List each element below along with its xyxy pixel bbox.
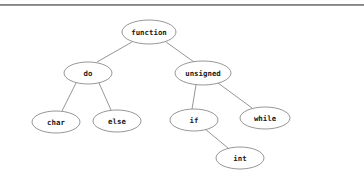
node-label-if: if [190, 116, 199, 125]
tree-edge-unsigned-to-if [192, 85, 196, 109]
tree-node-else[interactable]: else [93, 110, 141, 132]
tree-node-char[interactable]: char [32, 111, 80, 133]
tree-edge-function-to-do [97, 42, 132, 62]
tree-node-function[interactable]: function [122, 20, 176, 44]
edge-group [62, 42, 252, 148]
tree-node-int[interactable]: int [216, 147, 264, 169]
node-label-char: char [47, 118, 65, 127]
tree-edge-do-to-char [62, 83, 76, 111]
tree-node-if[interactable]: if [170, 109, 218, 131]
tree-diagram: functiondounsignedcharelseifwhileint [0, 0, 364, 184]
tree-edge-function-to-unsigned [166, 42, 194, 62]
tree-edge-unsigned-to-while [218, 83, 252, 108]
tree-node-while[interactable]: while [240, 107, 290, 129]
tree-edge-do-to-else [99, 83, 111, 110]
node-label-else: else [108, 117, 126, 126]
diagram-canvas: functiondounsignedcharelseifwhileint [0, 0, 364, 184]
node-label-while: while [254, 114, 277, 123]
tree-node-unsigned[interactable]: unsigned [175, 61, 231, 85]
tree-edge-if-to-int [205, 129, 228, 148]
node-label-function: function [131, 28, 167, 37]
node-label-int: int [233, 154, 246, 163]
node-label-unsigned: unsigned [185, 69, 221, 78]
tree-node-do[interactable]: do [64, 62, 112, 84]
node-label-do: do [84, 69, 93, 78]
